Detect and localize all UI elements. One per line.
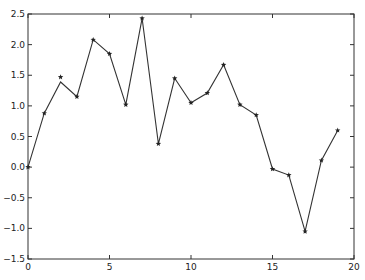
x-tick-label: 5: [107, 262, 113, 272]
star-marker: [221, 62, 226, 67]
star-marker: [123, 102, 128, 107]
star-marker: [335, 128, 340, 133]
line-chart: −1.5−1.0−0.50.00.51.01.52.02.5 05101520: [0, 0, 365, 280]
star-marker: [156, 141, 161, 146]
x-tick-label: 10: [185, 262, 197, 272]
star-marker: [58, 74, 63, 79]
y-tick-label: −0.5: [3, 193, 25, 203]
y-tick-label: 2.5: [11, 9, 25, 19]
y-tick-label: 0.0: [11, 162, 26, 172]
y-tick-label: −1.0: [3, 223, 25, 233]
y-tick-label: 1.5: [11, 70, 25, 80]
x-tick-label: 0: [25, 262, 31, 272]
y-tick-label: 2.0: [11, 40, 26, 50]
data-line: [28, 18, 338, 231]
y-axis-ticks: −1.5−1.0−0.50.00.51.01.52.02.5: [3, 9, 354, 264]
x-axis-ticks: 05101520: [25, 14, 360, 272]
x-tick-label: 20: [348, 262, 360, 272]
y-tick-label: 1.0: [11, 101, 26, 111]
plot-frame: [28, 14, 354, 259]
y-tick-label: 0.5: [11, 132, 25, 142]
star-markers: [25, 16, 340, 234]
y-tick-label: −1.5: [3, 254, 25, 264]
x-tick-label: 15: [267, 262, 278, 272]
star-marker: [270, 166, 275, 171]
